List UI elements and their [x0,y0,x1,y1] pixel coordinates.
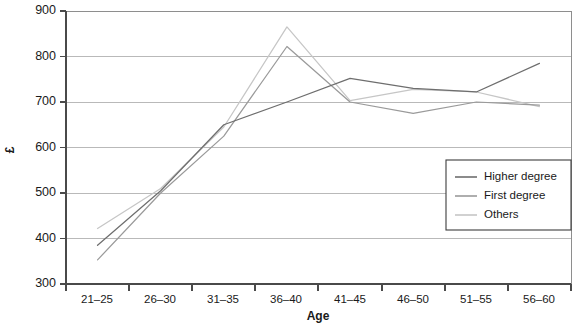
chart-legend: Higher degree First degree Others [446,160,571,230]
y-tick-label: 900 [35,3,56,17]
y-tick-marks [60,11,66,284]
x-tick-label: 36–40 [270,293,302,305]
y-axis-title: £ [3,146,17,153]
y-tick-label: 600 [35,140,56,154]
y-tick-label: 400 [35,231,56,245]
chart-canvas: 900 800 700 600 500 400 300 £ 21–25 26–3… [0,0,578,323]
x-tick-marks [66,284,571,291]
y-tick-label: 500 [35,185,56,199]
x-axis-title: Age [307,309,330,323]
legend-label-higher-degree: Higher degree [484,170,557,182]
legend-label-first-degree: First degree [484,189,545,201]
legend-label-others: Others [484,208,519,220]
y-tick-label: 800 [35,49,56,63]
x-tick-label: 46–50 [397,293,429,305]
line-chart: 900 800 700 600 500 400 300 £ 21–25 26–3… [0,0,578,323]
y-tick-label: 300 [35,276,56,290]
y-axis-tick-labels: 900 800 700 600 500 400 300 [35,3,56,290]
x-tick-label: 21–25 [81,293,113,305]
x-tick-label: 56–60 [523,293,555,305]
x-axis-tick-labels: 21–25 26–30 31–35 36–40 41–45 46–50 51–5… [81,293,555,305]
x-tick-label: 26–30 [144,293,176,305]
x-tick-label: 41–45 [334,293,366,305]
x-tick-label: 51–55 [460,293,492,305]
x-tick-label: 31–35 [207,293,239,305]
y-tick-label: 700 [35,94,56,108]
